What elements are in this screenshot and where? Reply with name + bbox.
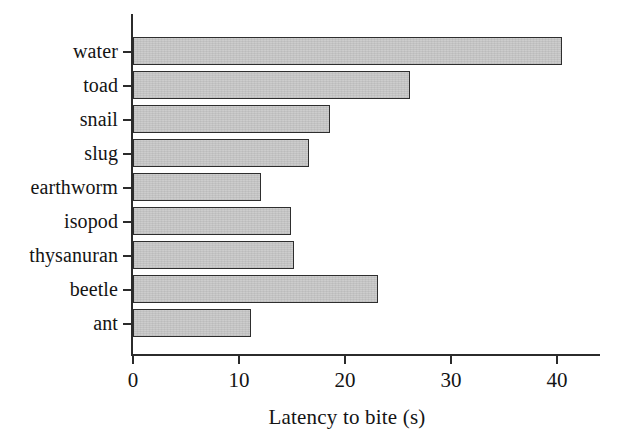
bar-ant [133, 309, 251, 337]
x-tick-20 [344, 354, 346, 364]
bar-isopod [133, 207, 291, 235]
x-axis-title: Latency to bite (s) [0, 404, 632, 430]
bar-slug [133, 139, 309, 167]
bar-beetle [133, 275, 378, 303]
bar-thysanuran [133, 241, 294, 269]
bar-water [133, 37, 562, 65]
x-axis-label-30: 30 [427, 368, 475, 392]
x-tick-10 [238, 354, 240, 364]
bar-toad [133, 71, 410, 99]
x-tick-40 [556, 354, 558, 364]
bar-earthworm [133, 173, 261, 201]
x-axis-label-40: 40 [533, 368, 581, 392]
plot-area: water toad snail slug earthworm isopod t… [0, 0, 632, 446]
x-axis-label-20: 20 [321, 368, 369, 392]
x-axis-label-10: 10 [215, 368, 263, 392]
bar-chart-figure: water toad snail slug earthworm isopod t… [0, 0, 632, 446]
x-tick-30 [450, 354, 452, 364]
x-axis-label-0: 0 [109, 368, 157, 392]
x-tick-0 [132, 354, 134, 364]
bar-snail [133, 105, 330, 133]
